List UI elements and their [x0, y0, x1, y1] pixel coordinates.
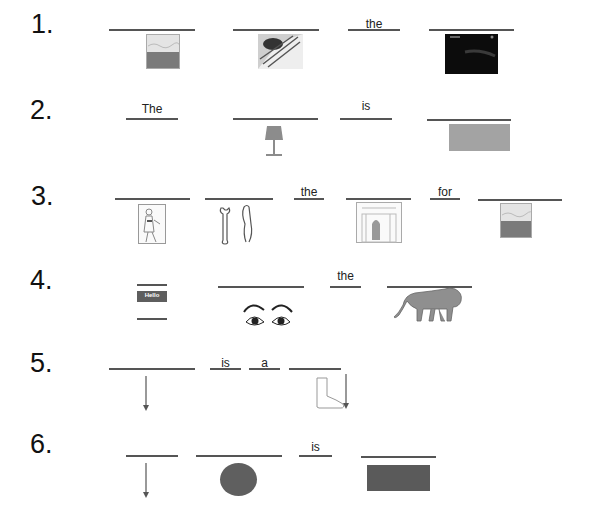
row-4-blank-3[interactable] [330, 286, 361, 288]
row-2-blank-4[interactable] [427, 119, 511, 121]
row-1-number: 1. [31, 11, 54, 38]
row-2-number: 2. [30, 97, 53, 124]
row-4-blank-1-bottom[interactable] [137, 318, 167, 320]
row-4-number: 4. [30, 267, 53, 294]
row-1-blank-1[interactable] [109, 29, 195, 31]
night-scene-photo-icon [445, 34, 498, 74]
row-3-blank-5[interactable] [430, 198, 460, 200]
dark-gray-circle-icon [220, 463, 257, 496]
wrench-and-pliers-icon [218, 204, 260, 246]
row-3-word-for: for [430, 186, 460, 198]
row-5-number: 5. [30, 350, 53, 377]
row-3-number: 3. [31, 183, 54, 210]
row-5-blank-1[interactable] [109, 368, 195, 370]
beach-photo-icon [146, 34, 180, 69]
row-1-blank-2[interactable] [233, 29, 319, 31]
row-1-blank-4[interactable] [429, 29, 514, 31]
row-5-blank-4[interactable] [289, 368, 341, 370]
hands-sewing-photo-icon [258, 34, 303, 69]
row-6-blank-1[interactable] [126, 455, 178, 457]
row-2-blank-3[interactable] [340, 118, 392, 120]
building-door-drawing-icon [356, 202, 402, 243]
row-4-blank-2[interactable] [218, 286, 304, 288]
row-2-word-the: The [126, 103, 178, 115]
name-tag-text: Hello [145, 292, 160, 298]
row-6-number: 6. [30, 431, 53, 458]
hello-name-tag-icon: Hello [137, 291, 167, 302]
row-4-word-the: the [330, 270, 361, 282]
row-2-word-is: is [340, 100, 392, 112]
beach-photo-icon [500, 203, 532, 238]
lamp-icon [264, 126, 284, 158]
row-3-blank-4[interactable] [346, 198, 411, 200]
row-5-blank-3[interactable] [249, 368, 280, 370]
row-1-blank-3[interactable] [348, 29, 400, 31]
dark-gray-rectangle-icon [367, 465, 430, 491]
person-drawing-icon [138, 204, 166, 244]
row-4-blank-1-top[interactable] [137, 284, 167, 286]
row-6-word-is: is [299, 441, 332, 453]
down-arrow-icon [142, 376, 150, 412]
row-6-blank-3[interactable] [299, 455, 332, 457]
gray-rectangle-icon [449, 124, 510, 151]
row-3-word-the: the [294, 186, 324, 198]
row-2-blank-1[interactable] [126, 118, 178, 120]
row-5-blank-2[interactable] [210, 368, 241, 370]
eyes-icon [242, 300, 294, 330]
lion-icon [393, 287, 465, 325]
row-3-blank-6[interactable] [478, 199, 562, 201]
row-6-blank-4[interactable] [361, 456, 436, 458]
foot-with-arrow-icon [315, 372, 353, 412]
row-2-blank-2[interactable] [233, 118, 318, 120]
down-arrow-icon [142, 463, 150, 499]
row-3-blank-3[interactable] [294, 198, 324, 200]
row-3-blank-1[interactable] [115, 198, 190, 200]
row-3-blank-2[interactable] [205, 198, 273, 200]
row-6-blank-2[interactable] [196, 455, 282, 457]
